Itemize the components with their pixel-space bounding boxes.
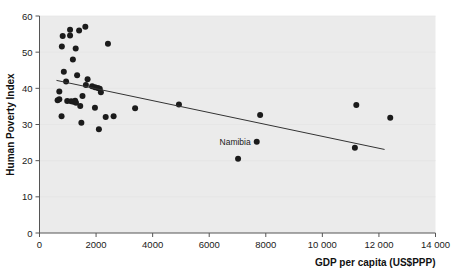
data-point [55, 97, 61, 103]
y-tick-label: 10 [22, 191, 33, 202]
x-tick-label: 4000 [142, 239, 163, 250]
data-point [61, 69, 67, 75]
x-axis-ticks: 0200040006000800010 00012 00014 000 [37, 233, 450, 250]
data-point [85, 76, 91, 82]
data-point [76, 27, 82, 33]
data-point [235, 156, 241, 162]
x-tick-label: 12 000 [364, 239, 393, 250]
data-point [59, 113, 65, 119]
x-tick-label: 0 [37, 239, 42, 250]
x-tick-label: 10 000 [308, 239, 337, 250]
data-point [92, 105, 98, 111]
data-point [353, 102, 359, 108]
x-tick-label: 8000 [255, 239, 276, 250]
y-tick-label: 20 [22, 155, 33, 166]
data-point [105, 41, 111, 47]
data-point [352, 145, 358, 151]
data-point [82, 24, 88, 30]
y-tick-label: 30 [22, 119, 33, 130]
x-tick-label: 6000 [199, 239, 220, 250]
data-point [67, 33, 73, 39]
data-point [77, 103, 83, 109]
y-axis-ticks: 0102030405060 [22, 11, 40, 239]
chart-svg: Namibia 0200040006000800010 00012 00014 … [0, 0, 451, 276]
data-point [103, 114, 109, 120]
y-tick-label: 50 [22, 47, 33, 58]
y-tick-label: 60 [22, 11, 33, 22]
y-tick-label: 0 [27, 228, 32, 239]
data-point [254, 139, 260, 145]
data-point [56, 89, 62, 95]
y-axis-title: Human Poverty Index [5, 73, 16, 176]
data-point [132, 105, 138, 111]
x-tick-label: 14 000 [421, 239, 450, 250]
x-tick-label: 2000 [86, 239, 107, 250]
data-point [257, 112, 263, 118]
x-axis-title: GDP per capita (US$PPP) [315, 257, 435, 268]
data-point [387, 115, 393, 121]
data-point [67, 27, 73, 33]
scatter-chart: Namibia 0200040006000800010 00012 00014 … [0, 0, 451, 276]
data-point [70, 56, 76, 62]
y-tick-label: 40 [22, 83, 33, 94]
data-point [60, 33, 66, 39]
annotation-label: Namibia [220, 137, 251, 147]
data-point [73, 46, 79, 52]
data-point [96, 126, 102, 132]
point-annotations: Namibia [220, 137, 251, 147]
data-point [79, 93, 85, 99]
data-point [78, 120, 84, 126]
data-point [59, 43, 65, 49]
data-point [74, 72, 80, 78]
data-point [111, 113, 117, 119]
